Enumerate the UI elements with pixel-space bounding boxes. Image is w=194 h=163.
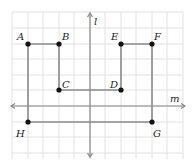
label-d: D: [109, 79, 118, 90]
labels: A B C D E F G H l m: [15, 16, 179, 139]
axis-m: [11, 104, 185, 109]
point-c: [56, 87, 61, 92]
label-f: F: [153, 31, 162, 42]
point-b: [56, 41, 61, 46]
label-axis-l: l: [94, 16, 97, 27]
axis-l: [88, 13, 93, 157]
label-a: A: [16, 31, 24, 42]
point-g: [149, 119, 154, 124]
label-axis-m: m: [170, 93, 179, 104]
point-f: [149, 41, 154, 46]
label-g: G: [153, 128, 161, 139]
geometry-diagram: A B C D E F G H l m: [0, 0, 194, 163]
point-h: [25, 119, 30, 124]
point-d: [118, 87, 123, 92]
label-h: H: [15, 128, 25, 139]
point-e: [118, 41, 123, 46]
label-b: B: [61, 31, 69, 42]
label-c: C: [62, 79, 70, 90]
point-a: [25, 41, 30, 46]
label-e: E: [110, 31, 119, 42]
